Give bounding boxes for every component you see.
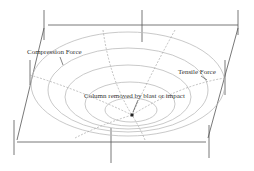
- deflection-ring: [48, 48, 208, 132]
- column-arrow: [133, 100, 138, 112]
- removed-column-marker: [131, 114, 134, 117]
- deflection-ring: [105, 98, 157, 122]
- slab-diagram: Compression Force Tensile Force Column r…: [0, 0, 254, 171]
- force-path-top-left: [103, 30, 132, 115]
- column-removed-label: Column removed by blast or impact: [84, 92, 185, 100]
- slab-edge-left: [17, 28, 44, 140]
- compression-force-label: Compression Force: [27, 48, 82, 56]
- compression-arrow: [60, 57, 63, 65]
- slab-edge-right: [208, 28, 238, 138]
- tensile-force-label: Tensile Force: [178, 68, 216, 76]
- deflection-ring: [85, 82, 175, 126]
